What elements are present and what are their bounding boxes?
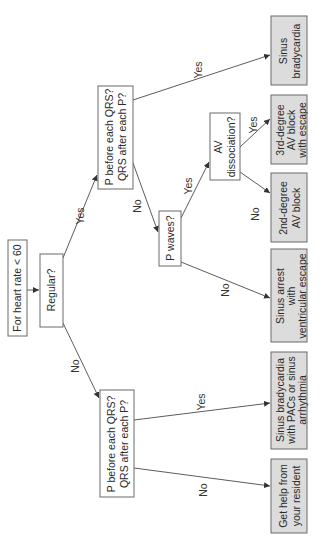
av-dissociation-line2: dissociation?: [225, 116, 237, 177]
start-node-text: For heart rate < 60: [11, 244, 23, 331]
edge-pqrs-reg-no: [133, 163, 158, 232]
label-pqrs-reg-yes: Yes: [192, 61, 204, 78]
outcome-sinus-brady-pacs: Sinus bradycardia with PACs or sinus arr…: [271, 352, 308, 449]
label-pqrs-irr-yes: Yes: [195, 393, 207, 410]
start-node: For heart rate < 60: [8, 240, 27, 336]
outcome-3rd-line3: with escape: [296, 102, 308, 159]
edge-avd-no: [240, 172, 270, 193]
outcome-sinus-brady-line2: bradycardia: [290, 23, 302, 78]
p-waves-text: P waves?: [164, 215, 176, 260]
outcome-arrest-line3: ventricular escape: [296, 253, 308, 338]
label-avd-no: No: [249, 207, 261, 221]
p-qrs-regular-line1: P before each QRS?: [103, 88, 115, 185]
outcome-help-line2: your resident: [290, 466, 302, 527]
flowchart: Yes No Yes No Yes No Yes No Yes No For h…: [0, 0, 334, 559]
label-regular-no: No: [69, 359, 81, 373]
label-pqrs-irr-no: No: [197, 483, 209, 497]
p-qrs-irregular-line1: P before each QRS?: [105, 395, 117, 492]
p-qrs-regular-line2: QRS after each P?: [116, 93, 128, 181]
av-dissociation-line1: AV: [212, 140, 224, 153]
label-pwaves-yes: Yes: [182, 177, 194, 194]
outcome-pacs-line3: arrhythmia: [296, 375, 308, 425]
av-dissociation-decision: AV dissociation?: [210, 113, 240, 180]
outcome-3rd-degree-av-block: 3rd-degree AV block with escape: [271, 95, 308, 164]
label-pqrs-reg-no: No: [131, 199, 143, 213]
p-qrs-decision-regular: P before each QRS? QRS after each P?: [98, 86, 133, 189]
outcome-2nd-line1: 2nd-degree: [277, 181, 289, 235]
outcome-sinus-bradycardia: Sinus bradycardia: [271, 16, 307, 85]
p-qrs-irregular-line2: QRS after each P?: [118, 400, 130, 488]
outcome-2nd-line2: AV block: [290, 187, 302, 228]
outcome-sinus-arrest: Sinus arrest with ventricular escape: [271, 249, 308, 342]
p-waves-decision: P waves?: [159, 211, 181, 266]
regular-decision-text: Regular?: [45, 269, 57, 312]
outcome-2nd-degree-av-block: 2nd-degree AV block: [271, 173, 307, 242]
label-regular-yes: Yes: [74, 207, 86, 224]
outcome-help-line1: Get help from: [277, 464, 289, 528]
outcome-sinus-brady-line1: Sinus: [277, 38, 289, 64]
outcome-get-help: Get help from your resident: [271, 459, 307, 533]
p-qrs-decision-irregular: P before each QRS? QRS after each P?: [100, 390, 134, 497]
regular-decision: Regular?: [40, 254, 63, 327]
label-avd-yes: Yes: [247, 116, 259, 133]
label-pwaves-no: No: [219, 283, 231, 297]
